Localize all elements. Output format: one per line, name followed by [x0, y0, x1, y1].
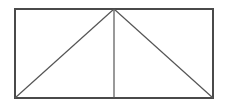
figure-canvas — [0, 0, 225, 107]
diagonal-left — [15, 9, 114, 98]
geometric-figure-svg — [0, 0, 225, 107]
diagonal-right — [114, 9, 213, 98]
